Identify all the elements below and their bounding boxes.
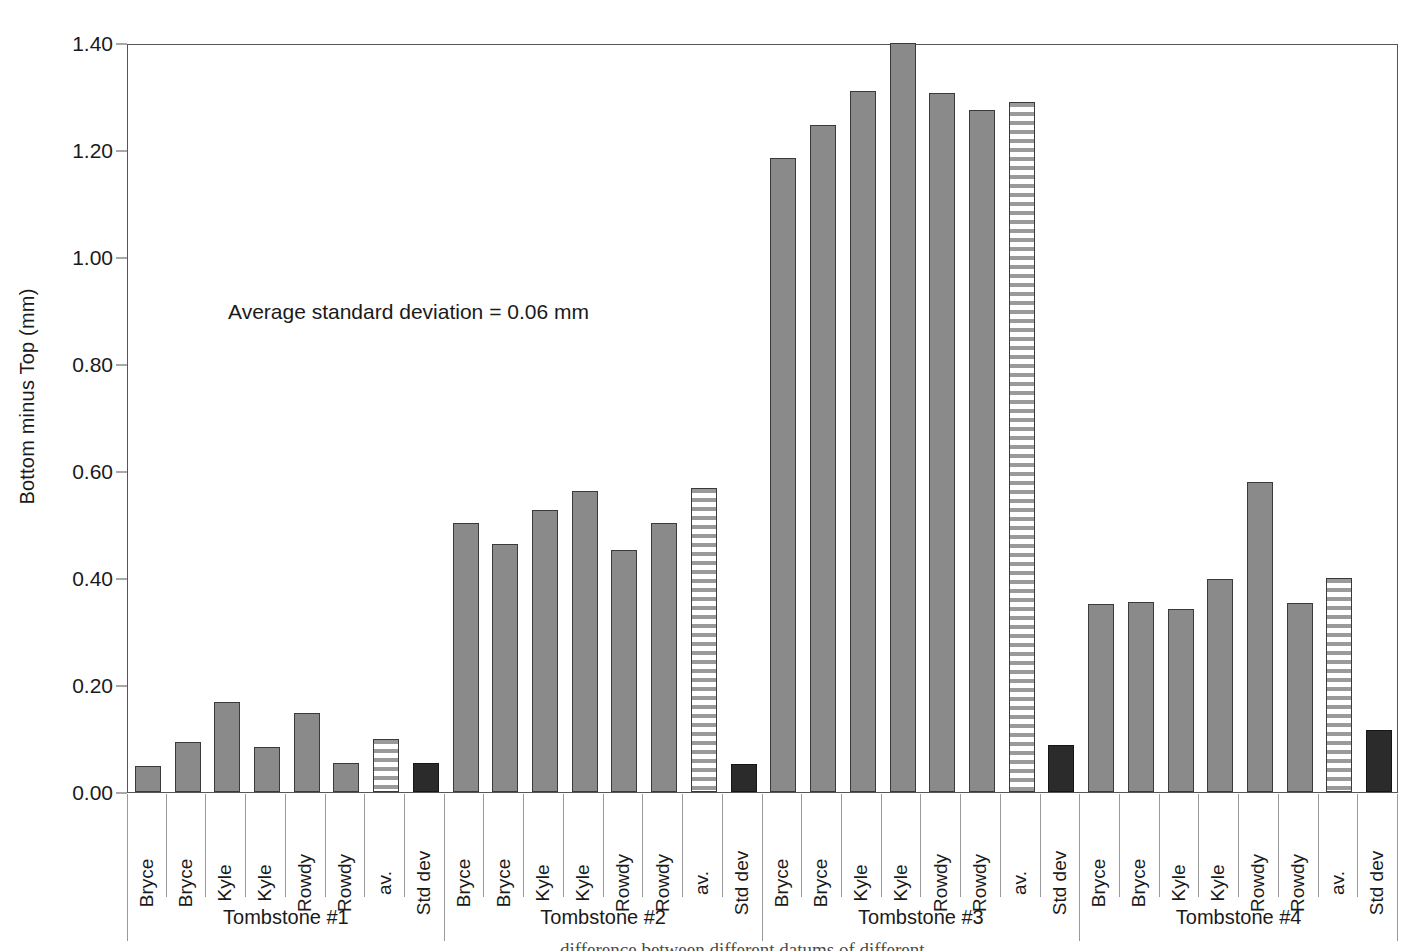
category-tick-rowdy: Rowdy: [921, 794, 961, 897]
category-tick-rowdy: Rowdy: [643, 794, 683, 897]
bar-slot: [1280, 45, 1320, 792]
y-tick-mark: [116, 258, 127, 259]
bar-slot: [1359, 45, 1399, 792]
category-tick-std-dev: Std dev: [1358, 794, 1398, 897]
bar-rowdy[interactable]: [651, 523, 677, 792]
bar-kyle[interactable]: [1207, 579, 1233, 792]
bar-slot: [446, 45, 486, 792]
category-tick-kyle: Kyle: [882, 794, 922, 897]
category-tick-label: Kyle: [890, 865, 912, 902]
bar-slot: [207, 45, 247, 792]
category-tick-label: Kyle: [1208, 865, 1230, 902]
category-tick-kyle: Kyle: [842, 794, 882, 897]
group-label-text: Tombstone #3: [858, 906, 984, 929]
bar-slot: [1320, 45, 1360, 792]
category-tick-kyle: Kyle: [1199, 794, 1239, 897]
bar-bryce[interactable]: [175, 742, 201, 792]
category-tick-label: av.: [374, 871, 396, 895]
y-tick-label: 1.40: [72, 32, 113, 56]
category-tick-kyle: Kyle: [246, 794, 286, 897]
bar-slot: [764, 45, 804, 792]
bar-bryce[interactable]: [492, 544, 518, 792]
bar-slot: [1002, 45, 1042, 792]
y-tick-label: 0.60: [72, 460, 113, 484]
bar-std-dev[interactable]: [1048, 745, 1074, 792]
bar-rowdy[interactable]: [333, 763, 359, 792]
bar-slot: [168, 45, 208, 792]
bar-slot: [843, 45, 883, 792]
category-tick-bryce: Bryce: [127, 794, 167, 897]
bar-av[interactable]: [373, 739, 399, 793]
category-tick-label: Kyle: [215, 865, 237, 902]
category-tick-std-dev: Std dev: [723, 794, 763, 897]
bar-bryce[interactable]: [1128, 602, 1154, 792]
bar-slot: [128, 45, 168, 792]
bar-slot: [1200, 45, 1240, 792]
bar-rowdy[interactable]: [294, 713, 320, 792]
bar-slot: [247, 45, 287, 792]
bar-kyle[interactable]: [572, 491, 598, 792]
category-tick-label: Kyle: [255, 865, 277, 902]
category-tick-av: av.: [1001, 794, 1041, 897]
bar-kyle[interactable]: [214, 702, 240, 792]
bar-slot: [684, 45, 724, 792]
bar-kyle[interactable]: [1168, 609, 1194, 793]
bar-kyle[interactable]: [254, 747, 280, 792]
bar-rowdy[interactable]: [1247, 482, 1273, 792]
bar-bryce[interactable]: [810, 125, 836, 792]
group-label-3: Tombstone #3: [763, 897, 1081, 941]
bar-av[interactable]: [1009, 102, 1035, 792]
category-tick-av: av.: [1319, 794, 1359, 897]
bar-kyle[interactable]: [850, 91, 876, 792]
bar-group: [446, 45, 764, 792]
group-label-2: Tombstone #2: [445, 897, 763, 941]
bar-bryce[interactable]: [453, 523, 479, 792]
bar-slot: [803, 45, 843, 792]
y-tick-mark: [116, 44, 127, 45]
group-label-text: Tombstone #2: [540, 906, 666, 929]
bar-kyle[interactable]: [532, 510, 558, 792]
bar-av[interactable]: [1326, 578, 1352, 792]
bar-slot: [366, 45, 406, 792]
category-tick-bryce: Bryce: [445, 794, 485, 897]
bar-bryce[interactable]: [770, 158, 796, 793]
bar-bryce[interactable]: [1088, 604, 1114, 792]
y-tick-mark: [116, 579, 127, 580]
category-axis: BryceBryceKyleKyleRowdyRowdyav.Std devBr…: [127, 794, 1398, 897]
bar-slot: [565, 45, 605, 792]
y-tick-mark: [116, 686, 127, 687]
bar-std-dev[interactable]: [413, 763, 439, 792]
category-tick-bryce: Bryce: [763, 794, 803, 897]
bar-slot: [287, 45, 327, 792]
bar-slot: [605, 45, 645, 792]
bar-slot: [525, 45, 565, 792]
bar-slot: [644, 45, 684, 792]
group-label-4: Tombstone #4: [1080, 897, 1398, 941]
y-tick-mark: [116, 793, 127, 794]
y-tick-mark: [116, 472, 127, 473]
y-tick-label: 0.20: [72, 674, 113, 698]
bar-rowdy[interactable]: [1287, 603, 1313, 792]
bar-rowdy[interactable]: [611, 550, 637, 792]
category-tick-av: av.: [683, 794, 723, 897]
plot-area: [127, 44, 1398, 793]
category-tick-label: av.: [691, 871, 713, 895]
bar-rowdy[interactable]: [969, 110, 995, 792]
y-tick-mark: [116, 151, 127, 152]
bar-group: [1081, 45, 1399, 792]
bar-slot: [922, 45, 962, 792]
bar-std-dev[interactable]: [1366, 730, 1392, 792]
y-tick-label: 1.00: [72, 246, 113, 270]
category-tick-rowdy: Rowdy: [1279, 794, 1319, 897]
y-tick-label: 0.00: [72, 781, 113, 805]
group-label-text: Tombstone #4: [1176, 906, 1302, 929]
bar-bryce[interactable]: [135, 766, 161, 792]
bars-layer: [128, 45, 1397, 792]
bar-std-dev[interactable]: [731, 764, 757, 792]
group-axis: Tombstone #1Tombstone #2Tombstone #3Tomb…: [127, 897, 1398, 941]
bar-kyle[interactable]: [890, 43, 916, 792]
bar-rowdy[interactable]: [929, 93, 955, 792]
bar-group: [764, 45, 1082, 792]
bar-av[interactable]: [691, 488, 717, 792]
category-tick-label: Kyle: [533, 865, 555, 902]
